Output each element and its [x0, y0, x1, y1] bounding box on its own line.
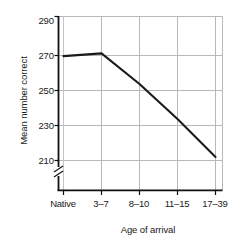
horizontal-gridlines: [59, 56, 223, 161]
vertical-gridlines: [64, 17, 216, 191]
y-axis-break-icon: [54, 166, 63, 177]
line-chart-figure: Mean number correct 290 270 250 230 210 …: [0, 0, 245, 245]
plot-area: [0, 0, 245, 245]
